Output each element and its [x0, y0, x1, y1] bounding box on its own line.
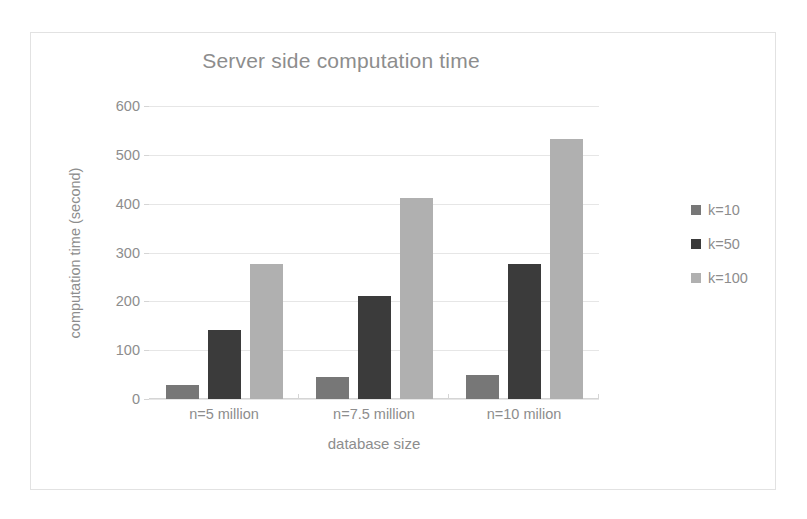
bar-group [449, 106, 599, 399]
category-label: n=10 milion [449, 406, 599, 422]
legend-label: k=100 [708, 270, 748, 286]
bar-k100-0 [250, 264, 283, 399]
x-axis-title: database size [149, 435, 599, 452]
bar-k10-0 [166, 385, 199, 399]
bar-k50-2 [508, 264, 541, 399]
bar-group [149, 106, 299, 399]
legend-swatch-icon [691, 239, 701, 249]
bars-layer [149, 106, 599, 399]
bar-k50-1 [358, 296, 391, 399]
bar-k10-2 [466, 375, 499, 399]
category-labels: n=5 millionn=7.5 millionn=10 milion [149, 406, 599, 422]
bar-group [299, 106, 449, 399]
legend-swatch-icon [691, 273, 701, 283]
y-axis-tick-label: 300 [116, 245, 140, 261]
chart-title: Server side computation time [31, 49, 651, 73]
legend-item-k50[interactable]: k=50 [691, 227, 748, 261]
y-axis-tick-label: 200 [116, 293, 140, 309]
y-axis-tick-label: 400 [116, 196, 140, 212]
y-axis-tick-label: 500 [116, 147, 140, 163]
chart-legend: k=10k=50k=100 [691, 193, 748, 295]
category-label: n=7.5 million [299, 406, 449, 422]
category-label: n=5 million [149, 406, 299, 422]
x-axis-tick-mark [598, 394, 599, 399]
y-axis-title: computation time (second) [65, 106, 85, 399]
plot-area: 0100200300400500600 [149, 106, 599, 399]
legend-swatch-icon [691, 205, 701, 215]
y-axis-tick-label: 100 [116, 342, 140, 358]
legend-item-k10[interactable]: k=10 [691, 193, 748, 227]
y-axis-tick-label: 0 [132, 391, 140, 407]
y-axis-title-text: computation time (second) [67, 167, 83, 338]
bar-k10-1 [316, 377, 349, 399]
y-axis-tick-label: 600 [116, 98, 140, 114]
chart-frame: Server side computation time computation… [30, 32, 776, 490]
y-axis-tick-mark [144, 399, 149, 400]
bar-k100-1 [400, 198, 433, 399]
bar-k50-0 [208, 330, 241, 399]
gridline [149, 399, 599, 400]
legend-item-k100[interactable]: k=100 [691, 261, 748, 295]
legend-label: k=50 [708, 236, 740, 252]
legend-label: k=10 [708, 202, 740, 218]
bar-k100-2 [550, 139, 583, 399]
